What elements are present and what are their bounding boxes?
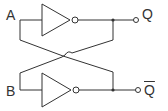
input-a-label: A	[6, 8, 15, 22]
bottom-inverter-bubble	[73, 87, 79, 93]
feedback-wire-top	[72, 20, 113, 53]
b-input-wire	[20, 57, 62, 90]
latch-diagram: A B Q Q	[0, 0, 168, 111]
top-inverter-triangle	[42, 4, 70, 36]
bottom-junction-dot	[111, 88, 114, 91]
input-b-label: B	[6, 84, 15, 98]
output-qbar-label: Q	[144, 83, 155, 97]
wire-crossover-hop	[62, 52, 72, 57]
q-output-terminal	[134, 18, 139, 23]
bottom-inverter-triangle	[42, 73, 71, 107]
feedback-wire-bottom	[63, 56, 113, 90]
top-inverter-bubble	[72, 17, 78, 23]
top-junction-dot	[111, 18, 114, 21]
qbar-output-terminal	[136, 88, 141, 93]
output-q-label: Q	[142, 7, 153, 21]
